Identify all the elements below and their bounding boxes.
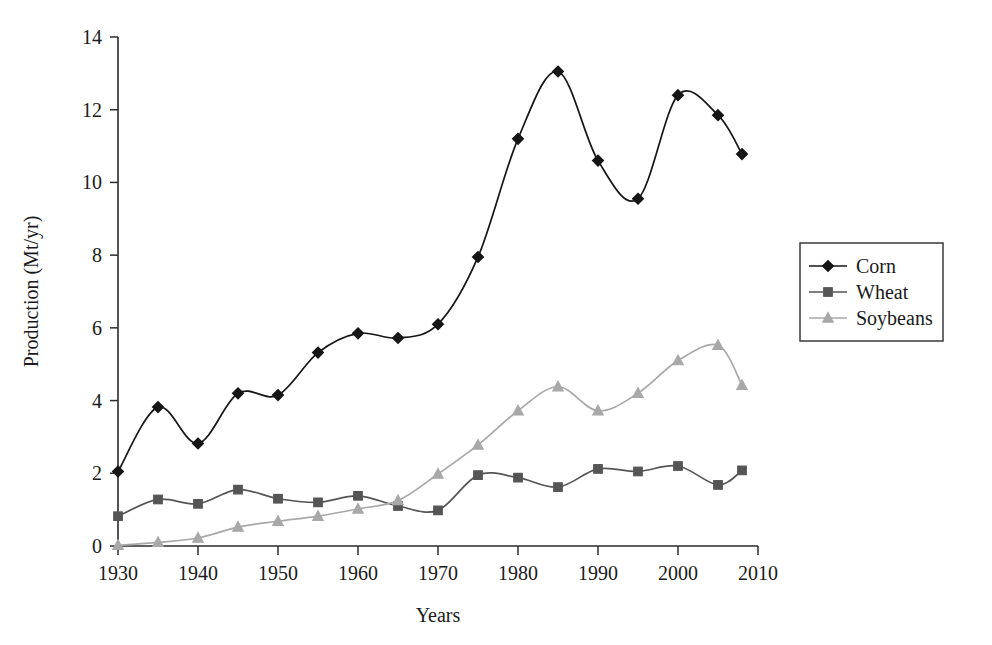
data-point-square xyxy=(554,483,563,492)
data-point-square xyxy=(194,500,203,509)
y-tick-label: 14 xyxy=(82,26,102,48)
x-tick-label: 2010 xyxy=(738,562,778,584)
data-point-triangle xyxy=(393,495,403,505)
data-point-square xyxy=(434,506,443,515)
data-point-triangle xyxy=(433,469,443,479)
chart-legend: CornWheatSoybeans xyxy=(800,243,943,341)
y-axis-ticks: 02468101214 xyxy=(82,26,118,557)
data-point-triangle xyxy=(737,380,747,390)
series-soybeans xyxy=(113,340,747,550)
data-point-diamond xyxy=(153,402,163,412)
y-tick-label: 10 xyxy=(82,171,102,193)
data-point-square xyxy=(594,465,603,474)
y-tick-label: 8 xyxy=(92,244,102,266)
legend-label-soybeans: Soybeans xyxy=(856,307,933,330)
data-point-triangle xyxy=(513,405,523,415)
chart-axis-titles: YearsProduction (Mt/yr) xyxy=(20,216,461,626)
data-point-square xyxy=(824,288,833,297)
data-point-triangle xyxy=(673,355,683,365)
legend-label-corn: Corn xyxy=(856,255,896,277)
data-point-square xyxy=(634,467,643,476)
chart-figure: 02468101214 1930194019501960197019801990… xyxy=(0,0,992,645)
series-wheat xyxy=(114,462,747,521)
data-point-diamond xyxy=(513,134,523,144)
production-line-chart: 02468101214 1930194019501960197019801990… xyxy=(0,0,992,645)
data-point-diamond xyxy=(737,149,747,159)
data-point-square xyxy=(738,466,747,475)
chart-series xyxy=(113,66,747,549)
x-tick-label: 1980 xyxy=(498,562,538,584)
x-tick-label: 1970 xyxy=(418,562,458,584)
x-tick-label: 1940 xyxy=(178,562,218,584)
data-point-triangle xyxy=(633,388,643,398)
x-axis-title: Years xyxy=(416,604,461,626)
x-tick-label: 1990 xyxy=(578,562,618,584)
data-point-diamond xyxy=(593,155,603,165)
data-point-square xyxy=(154,495,163,504)
data-point-diamond xyxy=(353,328,363,338)
data-point-square xyxy=(234,485,243,494)
y-tick-label: 4 xyxy=(92,390,102,412)
y-tick-label: 0 xyxy=(92,535,102,557)
y-axis-title: Production (Mt/yr) xyxy=(20,216,43,368)
series-line-corn xyxy=(118,71,742,471)
series-line-wheat xyxy=(118,466,742,517)
data-point-diamond xyxy=(273,390,283,400)
x-axis-ticks: 193019401950196019701980199020002010 xyxy=(98,546,778,584)
y-tick-label: 2 xyxy=(92,462,102,484)
series-corn xyxy=(113,66,747,476)
x-tick-label: 1960 xyxy=(338,562,378,584)
y-tick-label: 6 xyxy=(92,317,102,339)
data-point-square xyxy=(514,473,523,482)
data-point-square xyxy=(314,498,323,507)
x-tick-label: 2000 xyxy=(658,562,698,584)
data-point-square xyxy=(354,492,363,501)
x-tick-label: 1930 xyxy=(98,562,138,584)
data-point-square xyxy=(274,494,283,503)
data-point-square xyxy=(474,471,483,480)
data-point-triangle xyxy=(553,381,563,391)
data-point-diamond xyxy=(113,466,123,476)
data-point-square xyxy=(114,512,123,521)
x-tick-label: 1950 xyxy=(258,562,298,584)
legend-label-wheat: Wheat xyxy=(856,281,909,303)
data-point-square xyxy=(674,462,683,471)
series-line-soybeans xyxy=(118,344,742,545)
data-point-diamond xyxy=(473,252,483,262)
data-point-diamond xyxy=(393,333,403,343)
data-point-square xyxy=(714,481,723,490)
data-point-diamond xyxy=(193,438,203,448)
y-tick-label: 12 xyxy=(82,99,102,121)
